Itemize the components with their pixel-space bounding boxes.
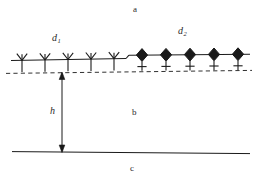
- diamond-receptor: [136, 49, 147, 71]
- diamond-receptor: [208, 48, 219, 70]
- diamond-receptor: [232, 48, 243, 70]
- height-arrow-head-bottom: [59, 145, 65, 153]
- label-d1-distance: d1: [52, 33, 61, 45]
- surface-solid-line-step: [126, 55, 129, 58]
- y-receptor-group: [17, 52, 119, 72]
- diamond-receptor-group: [136, 48, 243, 71]
- label-d1-base: d: [52, 32, 57, 43]
- y-receptor: [40, 53, 50, 71]
- y-receptor: [17, 54, 27, 72]
- label-d1-subscript: 1: [58, 37, 61, 44]
- label-h-height: h: [50, 106, 55, 116]
- y-receptor: [86, 53, 96, 71]
- y-receptor: [63, 53, 73, 71]
- bottom-boundary-line: [12, 152, 250, 154]
- height-dimension-arrow: [59, 72, 65, 153]
- label-d2-subscript: 2: [184, 30, 187, 37]
- diamond-receptor: [160, 48, 171, 70]
- label-d2-distance: d2: [178, 26, 187, 38]
- label-b: b: [132, 108, 137, 117]
- bottom-boundary-line-group: [12, 152, 250, 154]
- label-d2-base: d: [178, 25, 183, 36]
- dashed-interface-line-group: [6, 70, 252, 73]
- diamond-receptor: [184, 48, 195, 70]
- label-c: c: [130, 164, 134, 173]
- y-receptor: [109, 52, 119, 70]
- diagram-canvas: [0, 0, 260, 181]
- figure-diagram: a b c h d1 d2: [0, 0, 260, 181]
- dashed-interface-line: [6, 70, 252, 73]
- label-a: a: [133, 5, 137, 14]
